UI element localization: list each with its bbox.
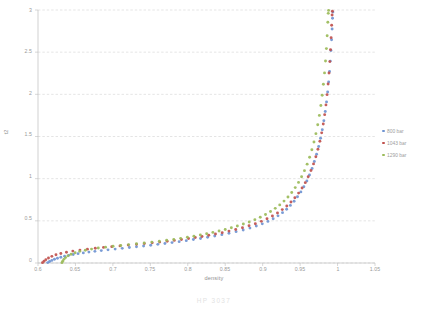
plot-area [0, 0, 428, 316]
legend-item[interactable]: 800 bar [381, 125, 427, 137]
legend-item[interactable]: 1043 bar [381, 137, 427, 149]
series-800-bar [46, 11, 334, 264]
legend-marker-icon [382, 130, 385, 133]
legend-item[interactable]: 1290 bar [381, 149, 427, 161]
legend: 800 bar 1043 bar 1290 bar [381, 125, 427, 161]
chart-container: 3 2.5 2 1.5 1 0.5 0 t2 0.6 0.65 0.7 0.75… [0, 0, 428, 316]
legend-label: 1290 bar [387, 153, 406, 158]
axis-ticks [35, 10, 375, 266]
gridlines [38, 10, 375, 263]
legend-label: 800 bar [387, 129, 404, 134]
legend-label: 1043 bar [387, 141, 406, 146]
legend-marker-icon [382, 142, 385, 145]
legend-marker-icon [382, 154, 385, 157]
figure-caption: HP 3037 [0, 297, 428, 304]
series-1043-bar [41, 10, 334, 264]
